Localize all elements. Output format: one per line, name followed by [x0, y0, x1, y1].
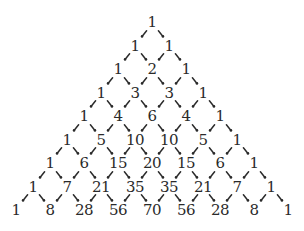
- triangle-entry: 1: [113, 62, 122, 77]
- triangle-entry: 1: [283, 203, 292, 218]
- triangle-entry: 5: [96, 132, 105, 147]
- triangle-entry: 15: [177, 156, 195, 171]
- triangle-entry: 28: [75, 203, 93, 218]
- triangle-entry: 2: [147, 62, 156, 77]
- triangle-entry: 6: [215, 156, 224, 171]
- triangle-entry: 4: [181, 109, 190, 124]
- triangle-entry: 7: [62, 179, 71, 194]
- triangle-entry: 8: [45, 203, 54, 218]
- triangle-entry: 1: [266, 179, 275, 194]
- triangle-entry: 10: [126, 132, 144, 147]
- pascal-triangle-diagram: 1111211331146411510105116152015611721353…: [0, 0, 304, 231]
- triangle-entry: 3: [164, 85, 173, 100]
- triangle-entry: 1: [164, 38, 173, 53]
- triangle-entry: 6: [79, 156, 88, 171]
- triangle-entry: 20: [143, 156, 161, 171]
- triangle-entry: 1: [198, 85, 207, 100]
- triangle-entry: 56: [109, 203, 127, 218]
- triangle-entry: 1: [11, 203, 20, 218]
- triangle-entry: 56: [177, 203, 195, 218]
- triangle-entry: 1: [62, 132, 71, 147]
- triangle-entry: 8: [249, 203, 258, 218]
- triangle-entry: 6: [147, 109, 156, 124]
- triangle-entry: 35: [126, 179, 144, 194]
- triangle-entry: 35: [160, 179, 178, 194]
- triangle-entry: 1: [249, 156, 258, 171]
- triangle-entry: 10: [160, 132, 178, 147]
- triangle-entry: 21: [92, 179, 110, 194]
- triangle-entry: 1: [79, 109, 88, 124]
- triangle-entry: 7: [232, 179, 241, 194]
- triangle-entry: 1: [96, 85, 105, 100]
- triangle-entry: 1: [147, 15, 156, 30]
- triangle-entry: 70: [143, 203, 161, 218]
- triangle-entry: 1: [232, 132, 241, 147]
- triangle-entry: 1: [215, 109, 224, 124]
- triangle-entry: 15: [109, 156, 127, 171]
- triangle-entry: 3: [130, 85, 139, 100]
- triangle-entry: 1: [130, 38, 139, 53]
- triangle-entry: 1: [28, 179, 37, 194]
- triangle-entry: 4: [113, 109, 122, 124]
- triangle-entry: 1: [45, 156, 54, 171]
- triangle-entry: 28: [211, 203, 229, 218]
- triangle-entry: 21: [194, 179, 212, 194]
- triangle-entry: 5: [198, 132, 207, 147]
- triangle-entry: 1: [181, 62, 190, 77]
